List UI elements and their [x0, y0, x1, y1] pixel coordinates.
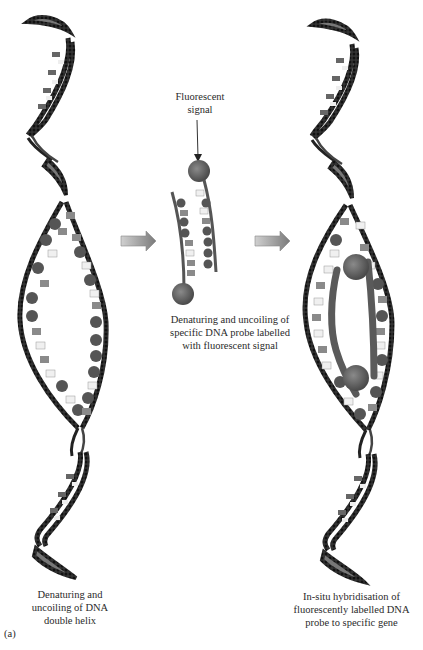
probe-strand-right: [368, 262, 374, 376]
callout-line-1: Fluorescent: [150, 90, 250, 103]
caption-denaturing-dna: Denaturing and uncoiling of DNA double h…: [10, 588, 130, 627]
fluorescent-signal-bottom: [172, 283, 194, 305]
callout-line-2: signal: [150, 103, 250, 116]
caption-line: In-situ hybridisation of: [280, 590, 423, 603]
caption-line: with fluorescent signal: [140, 339, 320, 352]
fluorescent-signal-callout: Fluorescent signal: [150, 90, 250, 116]
panel-label: (a): [4, 627, 16, 640]
caption-hybridisation: In-situ hybridisation of fluorescently l…: [280, 590, 423, 629]
caption-probe: Denaturing and uncoiling of specific DNA…: [140, 313, 320, 352]
caption-line: fluorescently labelled DNA: [280, 603, 423, 616]
callout-line: [197, 120, 198, 157]
fish-diagram: Fluorescent signal Denaturing and uncoil…: [0, 0, 423, 650]
step-arrow-2: [255, 231, 290, 251]
dna-double-helix-left: [20, 17, 106, 578]
fluorescent-signal-bound-top: [343, 254, 369, 280]
caption-line: Denaturing and: [10, 588, 130, 601]
caption-line: specific DNA probe labelled: [140, 326, 320, 339]
dna-probe-labelled: [172, 120, 216, 305]
caption-line: Denaturing and uncoiling of: [140, 313, 320, 326]
caption-line: probe to specific gene: [280, 616, 423, 629]
dna-double-helix-hybridised: [305, 21, 392, 582]
caption-line: double helix: [10, 614, 130, 627]
step-arrow-1: [121, 231, 156, 251]
fluorescent-signal-bound-bottom: [343, 365, 369, 391]
caption-line: uncoiling of DNA: [10, 601, 130, 614]
fluorescent-signal-top: [188, 160, 210, 182]
